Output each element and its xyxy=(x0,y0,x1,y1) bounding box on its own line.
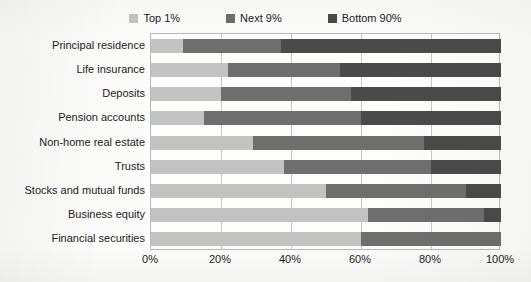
x-axis-tick-label: 20% xyxy=(209,253,231,265)
y-axis-label: Life insurance xyxy=(77,63,146,75)
bar-segment[interactable] xyxy=(484,208,502,222)
bar-segment[interactable] xyxy=(253,136,425,150)
bar-segment[interactable] xyxy=(221,87,351,101)
bar-segment[interactable] xyxy=(228,63,340,77)
legend-swatch-icon-next-9 xyxy=(226,14,235,23)
y-axis-label: Financial securities xyxy=(51,232,145,244)
chart-legend: Top 1% Next 9% Bottom 90% xyxy=(0,10,531,27)
bar-segment[interactable] xyxy=(151,232,361,246)
bar-segment[interactable] xyxy=(151,160,284,174)
bar-row xyxy=(151,160,499,174)
x-axis-tick-label: 80% xyxy=(419,253,441,265)
bar-row xyxy=(151,136,499,150)
bar-segment[interactable] xyxy=(351,87,502,101)
bar-row xyxy=(151,39,499,53)
plot-area xyxy=(150,33,500,250)
bar-segment[interactable] xyxy=(183,39,281,53)
legend-label-top-1: Top 1% xyxy=(143,13,180,24)
legend-item-next-9[interactable]: Next 9% xyxy=(226,13,282,24)
bar-segment[interactable] xyxy=(151,208,368,222)
bar-segment[interactable] xyxy=(368,208,484,222)
bar-segment[interactable] xyxy=(151,39,183,53)
y-axis-label: Pension accounts xyxy=(58,111,145,123)
bar-segment[interactable] xyxy=(151,87,221,101)
bar-segment[interactable] xyxy=(361,111,501,125)
bar-segment[interactable] xyxy=(151,111,204,125)
bar-segment[interactable] xyxy=(151,184,326,198)
bar-row xyxy=(151,208,499,222)
x-axis-tick-label: 60% xyxy=(349,253,371,265)
y-axis-label: Stocks and mutual funds xyxy=(25,184,145,196)
y-axis-label: Trusts xyxy=(115,160,145,172)
bar-row xyxy=(151,232,499,246)
bar-row xyxy=(151,63,499,77)
bar-segment[interactable] xyxy=(361,232,501,246)
legend-label-bottom-90: Bottom 90% xyxy=(342,13,402,24)
legend-item-top-1[interactable]: Top 1% xyxy=(129,13,180,24)
bar-segment[interactable] xyxy=(151,136,253,150)
bar-segment[interactable] xyxy=(281,39,502,53)
bar-row xyxy=(151,111,499,125)
legend-label-next-9: Next 9% xyxy=(240,13,282,24)
x-axis-tick-label: 100% xyxy=(486,253,514,265)
legend-swatch-icon-bottom-90 xyxy=(328,14,337,23)
y-axis-label: Business equity xyxy=(68,208,145,220)
bar-segment[interactable] xyxy=(466,184,501,198)
bar-segment[interactable] xyxy=(424,136,501,150)
x-axis-tick-label: 40% xyxy=(279,253,301,265)
bar-segment[interactable] xyxy=(431,160,501,174)
bar-segment[interactable] xyxy=(151,63,228,77)
bar-segment[interactable] xyxy=(340,63,501,77)
y-axis-label: Principal residence xyxy=(52,39,145,51)
bar-row xyxy=(151,87,499,101)
y-axis-label: Non-home real estate xyxy=(39,136,145,148)
bars-layer xyxy=(151,34,499,249)
bar-segment[interactable] xyxy=(204,111,362,125)
stacked-bar-chart: Top 1% Next 9% Bottom 90% Principal resi… xyxy=(0,0,531,282)
x-axis-tick-label: 0% xyxy=(142,253,158,265)
bar-row xyxy=(151,184,499,198)
legend-item-bottom-90[interactable]: Bottom 90% xyxy=(328,13,402,24)
y-axis-category-labels: Principal residenceLife insuranceDeposit… xyxy=(0,33,145,250)
x-axis-tick-labels: 0%20%40%60%80%100% xyxy=(150,253,500,271)
legend-swatch-icon-top-1 xyxy=(129,14,138,23)
bar-segment[interactable] xyxy=(326,184,466,198)
y-axis-label: Deposits xyxy=(102,87,145,99)
bar-segment[interactable] xyxy=(284,160,431,174)
